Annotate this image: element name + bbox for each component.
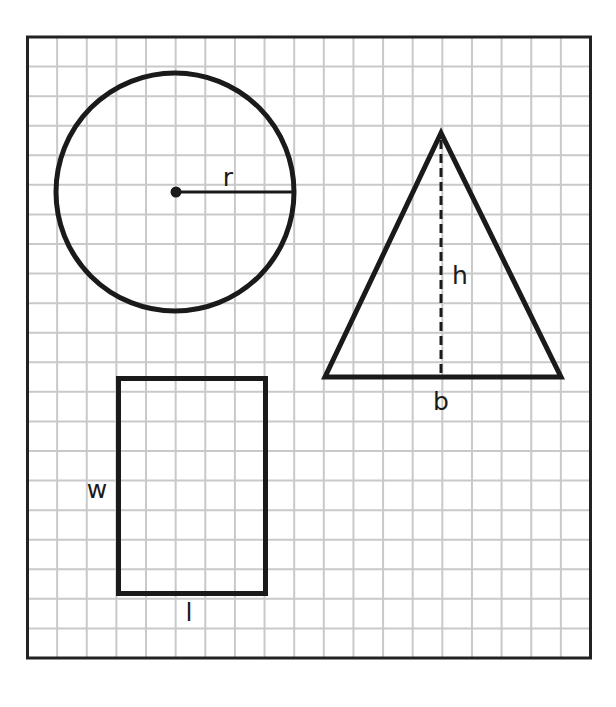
height-label: h [452,261,468,290]
geometry-diagram: r h b w l [0,0,616,707]
width-label: w [87,475,107,504]
radius-label: r [223,163,234,192]
length-label: l [186,598,193,627]
base-label: b [433,387,449,416]
center-point [171,187,182,198]
